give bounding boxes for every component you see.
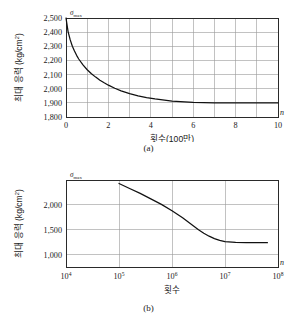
chart-a-ytick-label: 2,300 bbox=[44, 42, 62, 51]
chart-a-sigma-max-label: σmax bbox=[70, 9, 82, 18]
figure-b: 1,0001,5002,000104105106107108σmaxn횟수최대 … bbox=[0, 162, 297, 323]
chart-a-xtick-label: 2 bbox=[106, 121, 110, 130]
chart-a-xtick-label: 6 bbox=[191, 121, 195, 130]
chart-a-xaxis-title: 횟수(100만) bbox=[150, 133, 194, 142]
chart-b-xtick-label: 105 bbox=[114, 271, 125, 281]
svg-text:최대 응력 (kg/cm2): 최대 응력 (kg/cm2) bbox=[13, 189, 24, 258]
chart-b-ytick-label: 1,000 bbox=[44, 251, 62, 260]
figure-b-caption: (b) bbox=[0, 303, 297, 313]
chart-a-ytick-label: 1,800 bbox=[44, 113, 62, 122]
chart-a-xtick-label: 0 bbox=[64, 121, 68, 130]
chart-b-svg: 1,0001,5002,000104105106107108σmaxn횟수최대 … bbox=[0, 162, 297, 302]
chart-b-ytick-label: 2,000 bbox=[44, 201, 62, 210]
chart-a-svg: 1,8001,9002,0002,1002,2002,3002,4002,500… bbox=[0, 0, 297, 142]
chart-b-xtick-label: 106 bbox=[167, 271, 178, 281]
chart-b-xtick-label: 104 bbox=[61, 271, 72, 281]
chart-a-xtick-label: 4 bbox=[149, 121, 153, 130]
chart-a-ytick-label: 1,900 bbox=[44, 99, 62, 108]
chart-b-plot-area: 1,0001,5002,000104105106107108σmaxn횟수최대 … bbox=[0, 162, 297, 302]
chart-a-xtick-label: 10 bbox=[274, 121, 282, 130]
chart-a-ytick-label: 2,500 bbox=[44, 14, 62, 23]
figure-page: 1,8001,9002,0002,1002,2002,3002,4002,500… bbox=[0, 0, 297, 323]
chart-b-ytick-label: 1,500 bbox=[44, 226, 62, 235]
chart-a-ytick-label: 2,100 bbox=[44, 71, 62, 80]
chart-a-xtick-label: 8 bbox=[234, 121, 238, 130]
chart-b-xtick-label: 107 bbox=[220, 271, 231, 281]
chart-a-ytick-label: 2,200 bbox=[44, 56, 62, 65]
chart-b-n-label: n bbox=[280, 258, 284, 267]
chart-b-xaxis-title: 횟수 bbox=[164, 284, 180, 295]
figure-a: 1,8001,9002,0002,1002,2002,3002,4002,500… bbox=[0, 0, 297, 162]
chart-b-curve bbox=[119, 183, 267, 242]
svg-text:최대 응력 (kg/cm2): 최대 응력 (kg/cm2) bbox=[13, 33, 24, 102]
chart-a-yaxis-title: 최대 응력 (kg/cm2) bbox=[13, 33, 24, 102]
chart-a-ytick-label: 2,000 bbox=[44, 85, 62, 94]
chart-a-n-label: n bbox=[280, 108, 284, 117]
chart-b-sigma-max-label: σmax bbox=[70, 171, 82, 180]
chart-b-yaxis-title: 최대 응력 (kg/cm2) bbox=[13, 189, 24, 258]
chart-b-xtick-label: 108 bbox=[273, 271, 284, 281]
figure-a-caption: (a) bbox=[0, 143, 297, 153]
chart-a-ytick-label: 2,400 bbox=[44, 28, 62, 37]
chart-a-plot-area: 1,8001,9002,0002,1002,2002,3002,4002,500… bbox=[0, 0, 297, 142]
